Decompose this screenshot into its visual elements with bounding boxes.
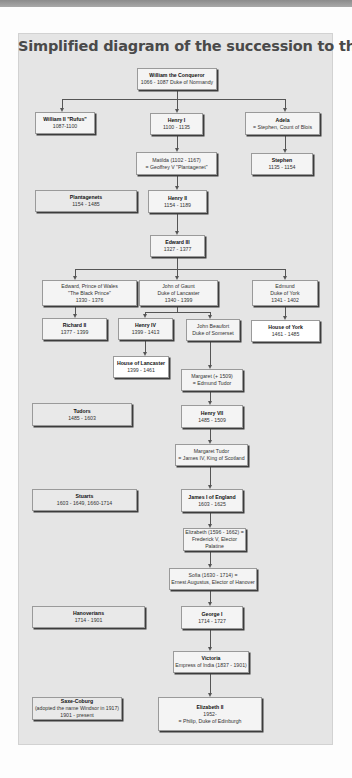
node-henry-ii: Henry II1154 - 1189 xyxy=(148,190,207,213)
node-henry-vii: Henry VII1485 - 1509 xyxy=(181,405,243,428)
node-george-i: George I1714 - 1727 xyxy=(181,606,243,629)
connector-line xyxy=(177,257,178,269)
connector-line xyxy=(62,99,286,100)
node-edward-iii: Edward III1327 - 1377 xyxy=(150,235,205,257)
node-detail: Duke of Somerset xyxy=(192,330,234,337)
node-name: Stephen xyxy=(272,157,292,164)
node-adela: Adela= Stephen, Count of Blois xyxy=(245,112,320,135)
node-margaret-tudor: Margaret Tudor= James IV, King of Scotla… xyxy=(175,444,248,466)
node-james-i: James I of England1603 - 1625 xyxy=(181,489,243,512)
node-elizabeth-ii: Elizabeth II1952-= Philip, Duke of Edinb… xyxy=(158,697,262,731)
node-detail: 1377 - 1399 xyxy=(61,329,89,336)
node-detail: Margaret (+ 1509) xyxy=(191,373,233,380)
connector-line xyxy=(210,466,211,486)
node-detail: Empress of India (1837 - 1901) xyxy=(175,662,247,669)
node-stuarts: Stuarts1603 - 1649, 1660-1714 xyxy=(32,489,137,511)
node-name: Edward III xyxy=(165,239,190,246)
node-william-ii: William II "Rufus"1087-1100 xyxy=(35,112,95,134)
node-detail: Sofia (1630 - 1714) = xyxy=(189,572,238,579)
connector-line xyxy=(210,629,211,648)
connector-line xyxy=(285,135,286,150)
connector-line xyxy=(210,673,211,694)
node-detail: Duke of Lancaster xyxy=(157,290,199,297)
node-name: Stuarts xyxy=(76,493,94,500)
node-detail: 1154 - 1189 xyxy=(164,202,191,209)
node-detail: = James IV, King of Scotland xyxy=(178,455,244,462)
node-name: Victoria xyxy=(202,655,221,662)
node-detail: 1330 - 1376 xyxy=(76,297,104,304)
node-name: Elizabeth II xyxy=(196,704,223,711)
node-detail: 1952- xyxy=(203,711,216,718)
node-william-the-conqueror: William the Conqueror1066 - 1087 Duke of… xyxy=(137,68,217,90)
node-name: Henry I xyxy=(168,117,186,124)
node-saxe-coburg: Saxe-Coburg(adopted the name Windsor in … xyxy=(32,697,122,720)
node-name: Adela xyxy=(275,117,289,124)
node-henry-iv: Henry IV1399 - 1413 xyxy=(118,318,173,340)
node-detail: 1135 - 1154 xyxy=(269,164,296,171)
connector-line xyxy=(177,213,178,232)
node-detail: 1603 - 1649, 1660-1714 xyxy=(57,500,112,507)
node-sofia: Sofia (1630 - 1714) =Ernest Augustus, El… xyxy=(169,568,257,590)
node-name: James I of England xyxy=(188,494,235,501)
node-name: George I xyxy=(201,611,222,618)
node-detail: Elizabeth (1596 - 1662) = xyxy=(185,529,243,536)
node-detail: Edmund xyxy=(275,283,294,290)
node-tudors: Tudors1485 - 1603 xyxy=(32,403,132,426)
node-detail: 1485 - 1509 xyxy=(198,417,226,424)
node-house-of-lancaster: House of Lancaster1399 - 1461 xyxy=(113,356,169,378)
node-detail: Margaret Tudor xyxy=(194,448,229,455)
node-edward-black-prince: Edward, Prince of Wales"The Black Prince… xyxy=(42,280,137,306)
node-detail: 1901 - present xyxy=(60,712,93,719)
node-detail: 1341 - 1402 xyxy=(271,297,299,304)
node-detail: 1714 - 1727 xyxy=(198,618,226,625)
node-matilda: Matilda (1102 - 1167)= Geoffrey V "Plant… xyxy=(136,152,217,175)
node-detail: 1340 - 1399 xyxy=(165,297,193,304)
node-hanoverians: Hanoverians1714 - 1901 xyxy=(32,606,145,628)
node-detail: 1399 - 1461 xyxy=(127,367,155,374)
top-bar xyxy=(0,0,352,7)
node-john-of-gaunt: John of GauntDuke of Lancaster1340 - 139… xyxy=(139,280,218,306)
node-henry-i: Henry I1100 - 1135 xyxy=(150,113,203,135)
node-stephen: Stephen1135 - 1154 xyxy=(251,153,313,175)
node-detail: = Philip, Duke of Edinburgh xyxy=(178,718,241,725)
node-elizabeth-palatine: Elizabeth (1596 - 1662) =Frederick V, El… xyxy=(183,528,246,551)
node-name: Saxe-Coburg xyxy=(61,698,93,705)
node-plantagenets: Plantagenets1154 - 1485 xyxy=(35,190,137,212)
node-detail: Matilda (1102 - 1167) xyxy=(152,157,201,164)
node-detail: "The Black Prince" xyxy=(68,290,111,297)
node-name: Hanoverians xyxy=(73,610,104,617)
node-detail: 1485 - 1603 xyxy=(68,415,96,422)
node-detail: 1603 - 1625 xyxy=(198,501,226,508)
connector-line xyxy=(145,312,211,313)
node-detail: Ernest Augustus, Elector of Hanover xyxy=(171,579,255,586)
node-detail: Duke of York xyxy=(270,290,299,297)
node-detail: Edward, Prince of Wales xyxy=(61,283,118,290)
node-detail: = Stephen, Count of Blois xyxy=(253,124,312,131)
node-detail: 1100 - 1135 xyxy=(163,124,190,131)
node-detail: 1154 - 1485 xyxy=(72,201,99,208)
node-detail: (adopted the name Windsor in 1917) xyxy=(35,705,119,712)
node-detail: John Beaufort xyxy=(197,323,229,330)
connector-line xyxy=(210,341,211,366)
node-name: William the Conqueror xyxy=(149,72,204,79)
node-name: Plantagenets xyxy=(70,194,102,201)
node-detail: 1087-1100 xyxy=(53,123,77,130)
node-detail: Frederick V, Elector Palatine xyxy=(184,536,245,550)
node-name: Henry II xyxy=(168,195,187,202)
node-house-of-york: House of York1461 - 1485 xyxy=(251,320,320,342)
node-detail: = Edmund Tudor xyxy=(193,380,232,387)
node-detail: = Geoffrey V "Plantagenet" xyxy=(146,164,208,171)
connector-line xyxy=(210,551,211,565)
node-name: Tudors xyxy=(73,408,90,415)
node-name: House of York xyxy=(268,324,303,331)
node-detail: 1066 - 1087 Duke of Normandy xyxy=(141,79,213,86)
node-margaret-beaufort: Margaret (+ 1509)= Edmund Tudor xyxy=(181,369,243,391)
node-name: Henry IV xyxy=(135,322,156,329)
node-detail: 1461 - 1485 xyxy=(272,331,300,338)
node-detail: 1399 - 1413 xyxy=(132,329,160,336)
node-detail: 1714 - 1901 xyxy=(75,617,103,624)
node-john-beaufort: John BeaufortDuke of Somerset xyxy=(186,319,240,341)
connector-line xyxy=(75,269,286,270)
node-name: House of Lancaster xyxy=(117,360,165,367)
node-name: Henry VII xyxy=(201,410,224,417)
